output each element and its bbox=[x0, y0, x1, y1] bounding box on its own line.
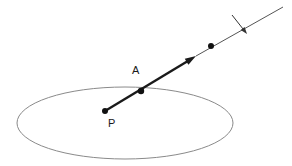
point-p-marker bbox=[102, 108, 108, 114]
ray-thin-segment bbox=[196, 7, 283, 56]
geometry-diagram: A P bbox=[0, 0, 292, 166]
figure-canvas: A P bbox=[0, 0, 292, 166]
point-a-label: A bbox=[132, 64, 140, 76]
point-p-label: P bbox=[108, 117, 115, 129]
point-a-marker bbox=[138, 88, 144, 94]
ray-midpoint-marker bbox=[208, 43, 214, 49]
ray-thick-segment bbox=[105, 61, 188, 111]
ray-arrowhead-icon bbox=[185, 56, 196, 65]
